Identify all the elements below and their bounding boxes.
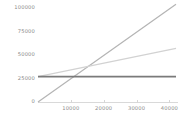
line-chart: 0250005000075000100000 10000200003000040… — [0, 0, 180, 117]
series-layer — [0, 0, 180, 117]
